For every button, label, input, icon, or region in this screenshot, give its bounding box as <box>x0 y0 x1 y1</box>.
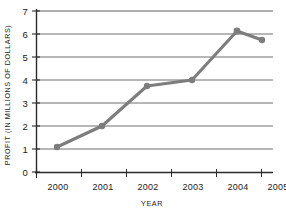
x-tick-label-2003: 2003 <box>183 182 204 192</box>
data-point-markers <box>54 28 265 151</box>
chart-canvas: 7 6 5 4 3 2 1 0 2000 2001 2002 2003 2004… <box>0 0 286 215</box>
y-axis-title: PROFIT (IN MILLIONS OF DOLLARS) <box>3 25 12 165</box>
data-point-2001 <box>99 123 105 129</box>
y-tick-label-5: 5 <box>23 52 28 63</box>
y-tick-label-6: 6 <box>23 29 28 40</box>
y-tick-label-3: 3 <box>23 98 28 109</box>
x-tick-label-2002: 2002 <box>138 182 159 192</box>
line-chart: 7 6 5 4 3 2 1 0 2000 2001 2002 2003 2004… <box>0 0 286 215</box>
data-point-2003 <box>189 77 195 83</box>
y-tick-label-2: 2 <box>23 121 28 132</box>
x-tick-label-2001: 2001 <box>93 182 114 192</box>
data-point-2002 <box>144 83 150 89</box>
y-tick-label-7: 7 <box>23 6 28 17</box>
x-tick-label-2000: 2000 <box>48 182 69 192</box>
data-line-profit <box>57 31 262 147</box>
data-point-2004 <box>234 28 241 35</box>
x-tick-label-2005: 2005 <box>268 182 286 192</box>
y-tick-label-4: 4 <box>23 75 28 86</box>
x-tick-label-2004: 2004 <box>228 182 249 192</box>
data-point-2000 <box>54 144 60 150</box>
y-tick-label-1: 1 <box>23 144 28 155</box>
data-point-2005 <box>259 37 265 43</box>
y-tick-label-0: 0 <box>23 167 28 178</box>
x-axis-title: YEAR <box>141 199 163 208</box>
